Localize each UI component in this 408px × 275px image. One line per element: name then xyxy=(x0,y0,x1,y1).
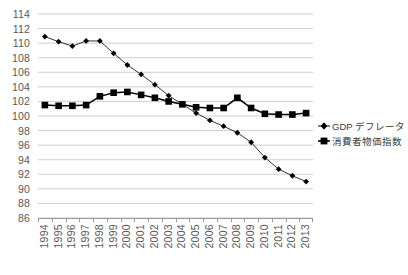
x-axis-tick-label: 2000 xyxy=(121,224,132,249)
x-axis-tick xyxy=(217,218,218,222)
x-axis-tick xyxy=(93,218,94,222)
x-axis-tick xyxy=(176,218,177,222)
data-point-square xyxy=(97,93,104,100)
data-point-diamond xyxy=(138,72,144,78)
y-axis-tick-label: 98 xyxy=(18,126,30,136)
x-axis-ticks xyxy=(38,218,313,223)
data-point-square xyxy=(207,105,214,112)
y-axis-tick-label: 102 xyxy=(12,96,30,106)
data-point-square xyxy=(138,92,145,99)
data-point-diamond xyxy=(289,173,295,179)
x-axis-tick xyxy=(52,218,53,222)
y-axis-tick-label: 88 xyxy=(18,198,30,208)
data-point-diamond xyxy=(69,43,75,49)
x-axis-tick-label: 1996 xyxy=(66,224,77,249)
data-point-diamond xyxy=(42,34,48,40)
data-point-square xyxy=(275,111,282,118)
x-axis-tick-label: 2007 xyxy=(218,224,229,249)
data-point-square xyxy=(124,89,131,96)
y-axis-tick-label: 90 xyxy=(18,184,30,194)
data-point-square xyxy=(289,111,296,118)
x-axis-labels: 1994199519961997199819992000200120022003… xyxy=(38,224,313,272)
x-axis-tick xyxy=(299,218,300,222)
x-axis-tick-label: 2008 xyxy=(231,224,242,249)
data-point-square xyxy=(110,89,117,96)
y-axis-tick-label: 112 xyxy=(13,24,30,34)
x-axis-tick xyxy=(258,218,259,222)
x-axis-tick-label: 2001 xyxy=(135,224,146,249)
data-point-square xyxy=(193,104,200,111)
legend-label-gdp-deflator: GDP デフレータ xyxy=(332,121,405,132)
x-axis-tick-label: 1998 xyxy=(94,224,105,249)
x-axis-tick-label: 2004 xyxy=(176,224,187,249)
data-point-square xyxy=(69,103,76,110)
chart-legend: GDP デフレータ 消費者物価指数 xyxy=(318,119,408,149)
y-axis-tick-label: 108 xyxy=(12,53,30,63)
y-axis-tick-label: 100 xyxy=(12,111,30,121)
data-point-diamond xyxy=(303,179,309,185)
data-point-diamond xyxy=(221,123,227,129)
chart-container: 11411211010810610410210098969492908886 1… xyxy=(0,0,408,275)
series-line xyxy=(45,37,306,182)
y-axis-tick-label: 114 xyxy=(13,9,30,19)
x-axis-tick xyxy=(272,218,273,222)
data-point-square xyxy=(220,105,227,112)
x-axis-tick-label: 1994 xyxy=(39,224,50,249)
data-point-square xyxy=(152,94,159,101)
data-point-square xyxy=(262,111,269,118)
y-axis-tick-label: 94 xyxy=(18,155,30,165)
legend-item-cpi[interactable]: 消費者物価指数 xyxy=(318,134,408,148)
x-axis-tick-label: 1995 xyxy=(53,224,64,249)
data-point-diamond xyxy=(207,117,213,123)
y-axis-tick-label: 106 xyxy=(12,67,30,77)
data-point-square xyxy=(42,102,49,109)
x-axis-tick-label: 1997 xyxy=(80,224,91,249)
x-axis-tick-label: 2006 xyxy=(204,224,215,249)
x-axis-tick xyxy=(38,218,39,222)
x-axis-tick xyxy=(121,218,122,222)
legend-label-cpi: 消費者物価指数 xyxy=(332,136,402,147)
data-point-square xyxy=(303,110,310,117)
y-axis-tick-label: 110 xyxy=(13,38,30,48)
legend-item-gdp-deflator[interactable]: GDP デフレータ xyxy=(318,119,408,133)
x-axis-tick-label: 2002 xyxy=(149,224,160,249)
x-axis-tick xyxy=(312,218,313,222)
data-point-square xyxy=(83,102,90,109)
data-point-diamond xyxy=(193,110,199,116)
x-axis-tick-label: 2013 xyxy=(300,224,311,249)
x-axis-tick-label: 1999 xyxy=(108,224,119,249)
x-axis-tick xyxy=(148,218,149,222)
y-axis-tick-label: 96 xyxy=(18,140,30,150)
x-axis-tick xyxy=(79,218,80,222)
x-axis-tick xyxy=(203,218,204,222)
x-axis-tick xyxy=(231,218,232,222)
data-point-diamond xyxy=(56,39,62,45)
y-axis-tick-label: 92 xyxy=(18,169,30,179)
data-point-diamond xyxy=(234,130,240,136)
x-axis-tick xyxy=(189,218,190,222)
data-point-square xyxy=(55,103,62,110)
x-axis-tick-label: 2003 xyxy=(163,224,174,249)
y-axis-labels: 11411211010810610410210098969492908886 xyxy=(0,14,34,218)
x-axis-tick-label: 2010 xyxy=(259,224,270,249)
x-axis-tick-label: 2011 xyxy=(273,224,284,248)
x-axis-tick xyxy=(134,218,135,222)
x-axis-tick-label: 2005 xyxy=(190,224,201,249)
data-point-square xyxy=(165,98,172,105)
x-axis-tick xyxy=(66,218,67,222)
x-axis-tick xyxy=(107,218,108,222)
x-axis-tick xyxy=(244,218,245,222)
data-point-square xyxy=(248,105,255,112)
data-point-square xyxy=(234,94,241,101)
data-series-layer xyxy=(38,14,313,218)
square-marker-icon xyxy=(318,135,330,147)
x-axis-tick xyxy=(286,218,287,222)
plot-area xyxy=(38,14,313,218)
y-axis-tick-label: 104 xyxy=(12,82,30,92)
x-axis-tick-label: 2012 xyxy=(286,224,297,249)
diamond-marker-icon xyxy=(318,120,330,132)
x-axis-tick xyxy=(162,218,163,222)
y-axis-tick-label: 86 xyxy=(18,213,30,223)
data-point-square xyxy=(179,101,186,108)
data-point-diamond xyxy=(83,38,89,44)
